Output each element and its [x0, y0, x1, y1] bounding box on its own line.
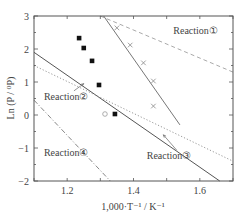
data-point-square	[90, 59, 95, 64]
data-point-square	[113, 112, 118, 117]
y-tick-label: 1	[24, 77, 29, 88]
y-tick-label: 2	[24, 44, 29, 55]
series-line	[34, 100, 110, 181]
data-point-cross	[151, 104, 156, 109]
y-axis-title: Ln (P / ⁰P)	[5, 77, 17, 120]
data-point-circle	[103, 112, 108, 117]
data-point-cross	[128, 43, 133, 48]
y-tick-label: −2	[18, 176, 29, 187]
data-point-square	[77, 36, 82, 41]
y-tick-label: −1	[18, 143, 29, 154]
annotation-label: Reaction①	[173, 25, 218, 36]
x-axis-title: 1,000·T⁻¹ / K⁻¹	[101, 201, 165, 212]
annotation-arrow	[163, 135, 176, 150]
data-point-square	[97, 83, 102, 88]
annotation-arrow	[74, 84, 84, 91]
data-point-cross	[151, 79, 156, 84]
annotation-label: Reaction②	[44, 91, 89, 102]
data-point-square	[81, 46, 86, 51]
series-line	[34, 52, 220, 181]
y-tick-label: 0	[24, 110, 29, 121]
x-tick-label: 1.6	[194, 185, 207, 196]
annotation-label: Reaction④	[44, 147, 89, 158]
x-tick-label: 1.4	[127, 185, 140, 196]
y-tick-label: 3	[24, 11, 29, 22]
annotation-label: Reaction③	[147, 150, 192, 161]
chart: 1.21.41.6 −2−10123 1,000·T⁻¹ / K⁻¹ Ln (P…	[0, 0, 244, 222]
data-point-cross	[141, 61, 146, 66]
data-point-cross	[115, 26, 120, 31]
x-tick-label: 1.2	[61, 185, 74, 196]
